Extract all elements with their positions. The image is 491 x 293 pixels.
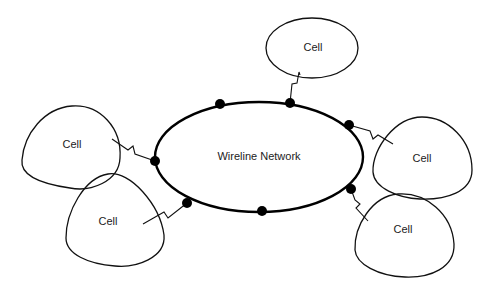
cell-boundary (355, 194, 454, 277)
cell-label: Cell (304, 41, 323, 53)
network-node (285, 98, 295, 108)
cell-label: Cell (394, 223, 413, 235)
network-node (150, 156, 160, 166)
network-diagram: Wireline Network Cell Cell Cell Cell Cel… (0, 0, 491, 293)
cell-label: Cell (99, 215, 118, 227)
wireline-network-label: Wireline Network (217, 150, 301, 162)
cell-top: Cell (266, 18, 358, 78)
network-node (257, 206, 267, 216)
network-node (346, 184, 356, 194)
cell-label: Cell (413, 152, 432, 164)
cell-right-upper: Cell (373, 117, 472, 199)
radio-link-right-upper (349, 125, 393, 144)
cell-left-upper: Cell (22, 106, 120, 189)
network-node (215, 99, 225, 109)
cell-right-lower: Cell (355, 194, 454, 277)
radio-link-left-lower (143, 203, 187, 224)
network-node (344, 120, 354, 130)
cell-label: Cell (63, 138, 82, 150)
network-node (182, 198, 192, 208)
